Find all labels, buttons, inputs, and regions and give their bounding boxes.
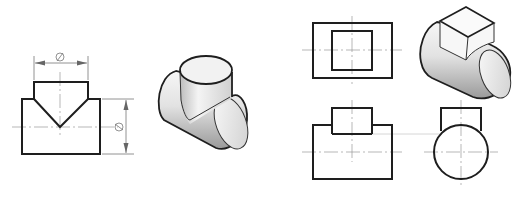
tee-front-view	[12, 53, 134, 154]
arrow-left-icon	[35, 61, 45, 66]
arrow-up-icon	[124, 100, 129, 110]
horizontal-diameter-dimension	[34, 53, 88, 80]
tee-outline	[22, 82, 100, 154]
prism-side-view	[424, 100, 498, 186]
prism-isometric-view	[420, 7, 516, 102]
prism-front-view	[302, 100, 440, 179]
intersection-curve	[34, 99, 88, 127]
vertical-diameter-dimension	[102, 99, 134, 154]
vertical-cylinder-top	[180, 56, 232, 84]
arrow-right-icon	[77, 61, 87, 66]
arrow-down-icon	[124, 143, 129, 153]
drawing-canvas	[0, 0, 524, 197]
prism-top-view	[302, 16, 402, 84]
tee-isometric-view	[159, 56, 255, 154]
front-outline	[313, 108, 392, 179]
